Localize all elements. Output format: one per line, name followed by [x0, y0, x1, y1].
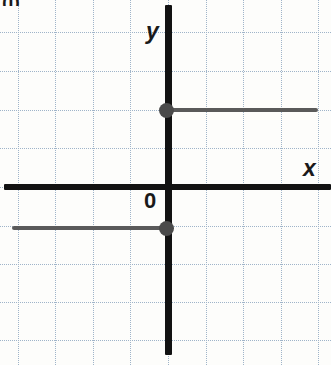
gridline-vertical — [130, 0, 131, 365]
origin-label: 0 — [144, 190, 156, 212]
gridline-vertical — [18, 0, 19, 365]
gridline-vertical — [281, 0, 282, 365]
x-axis-label: x — [303, 157, 316, 180]
figure-part-label: (i) — [2, 0, 20, 6]
gridline-vertical — [318, 0, 319, 365]
gridline-vertical — [55, 0, 56, 365]
y-axis-line — [165, 5, 172, 355]
gridline-vertical — [243, 0, 244, 365]
gridline-vertical — [93, 0, 94, 365]
y-axis-label: y — [146, 20, 159, 43]
lower-ray-segment — [12, 226, 166, 230]
graph-figure: (i) y x 0 — [0, 0, 331, 365]
upper-ray-segment — [166, 108, 318, 112]
lower-ray-endpoint-dot — [159, 221, 174, 236]
upper-ray-endpoint-dot — [159, 103, 174, 118]
gridline-vertical — [206, 0, 207, 365]
